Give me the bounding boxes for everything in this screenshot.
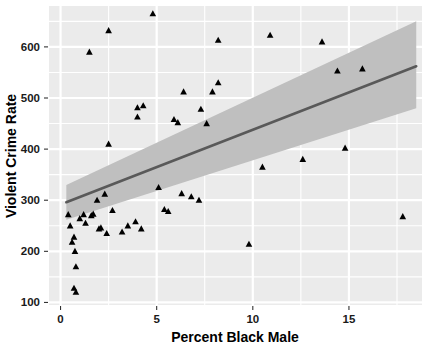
y-axis-title: Violent Crime Rate <box>3 94 19 218</box>
scatter-plot-figure: 051015 100200300400500600 Percent Black … <box>0 0 427 349</box>
y-tick-label: 500 <box>21 92 40 104</box>
y-tick-label: 400 <box>21 143 40 155</box>
chart-canvas: 051015 100200300400500600 Percent Black … <box>0 0 427 349</box>
x-tick-label: 10 <box>246 313 259 325</box>
y-tick-label: 200 <box>21 245 40 257</box>
x-tick-label: 0 <box>57 313 63 325</box>
x-axis-title: Percent Black Male <box>171 329 299 345</box>
y-tick-label: 100 <box>21 296 40 308</box>
x-tick-label: 15 <box>343 313 356 325</box>
x-tick-label: 5 <box>153 313 160 325</box>
y-tick-label: 300 <box>21 194 40 206</box>
y-tick-label: 600 <box>21 41 40 53</box>
